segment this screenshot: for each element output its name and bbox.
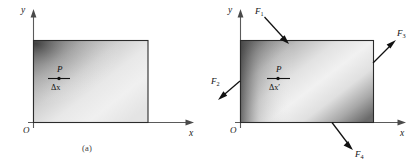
x-axis-label-a: x	[188, 128, 194, 138]
x-axis-label-b: x	[399, 128, 405, 138]
force-f4: F4	[332, 123, 364, 161]
force-f1-label: F1	[254, 6, 264, 17]
body-rect-b	[241, 41, 374, 123]
force-f3-label: F3	[396, 28, 406, 39]
origin-label-b: O	[230, 125, 237, 135]
point-p-label-a: P	[56, 64, 63, 74]
force-f1: F1	[254, 6, 289, 44]
element-width-label-a: Δx	[51, 83, 60, 92]
figure-root: y x O P Δx (a)	[0, 0, 415, 168]
panel-b-canvas: y x O P Δx′	[208, 0, 415, 168]
force-f2-label: F2	[210, 76, 220, 87]
force-f3: F3	[373, 28, 406, 63]
panel-a: y x O P Δx (a)	[0, 0, 208, 168]
caption-a: (a)	[82, 143, 92, 153]
force-f2: F2	[210, 76, 240, 100]
element-width-label-b: Δx′	[269, 83, 280, 92]
y-axis-label-b: y	[227, 5, 233, 15]
y-axis-label-a: y	[20, 5, 26, 15]
point-p-label-b: P	[275, 64, 282, 74]
force-f4-label: F4	[354, 149, 364, 160]
origin-label-a: O	[23, 125, 30, 135]
panel-b: y x O P Δx′	[208, 0, 415, 168]
panel-a-canvas: y x O P Δx	[0, 0, 208, 168]
body-rect-a	[34, 41, 149, 123]
